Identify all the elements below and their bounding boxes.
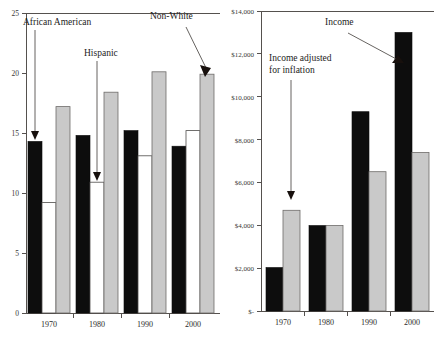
right-ytick-4000: $4,000 — [235, 222, 255, 230]
right-group-1980 — [309, 226, 343, 312]
left-chart-canvas: 25 20 15 10 5 0 — [0, 0, 220, 340]
annotation-income-adjusted-for-inflation: Income adjusted for inflation — [269, 53, 332, 200]
right-x-tick-marks — [304, 311, 390, 316]
left-x-tick-marks — [73, 313, 169, 318]
annotation-income-adjusted-label-line2: for inflation — [269, 65, 315, 75]
left-bar-non-white-1970 — [56, 107, 70, 313]
right-ytick-2000: $2,000 — [235, 265, 255, 273]
right-group-1990 — [352, 112, 386, 311]
left-bar-hispanic-1980 — [90, 182, 104, 313]
left-bar-african-american-1980 — [76, 135, 90, 313]
left-group-1990 — [124, 72, 166, 313]
right-ytick-8000: $8,000 — [235, 137, 255, 145]
annotation-income-leader — [348, 33, 400, 61]
right-ytick-6000: $6,000 — [235, 179, 255, 187]
left-bar-african-american-2000 — [172, 146, 186, 313]
right-group-2000 — [395, 32, 429, 311]
left-bar-chart: 25 20 15 10 5 0 — [0, 0, 220, 340]
right-xtick-1980: 1980 — [318, 318, 334, 327]
left-bar-non-white-2000 — [200, 74, 214, 313]
left-bar-hispanic-1970 — [42, 203, 56, 313]
figure-two-bar-charts: 25 20 15 10 5 0 — [0, 0, 434, 340]
left-bar-non-white-1990 — [152, 72, 166, 313]
annotation-african-american-label: African American — [23, 17, 92, 27]
right-bar-income-adjusted-2000 — [412, 152, 429, 311]
right-xtick-2000: 2000 — [404, 318, 420, 327]
right-bar-income-1980 — [309, 226, 326, 312]
left-xtick-2000: 2000 — [185, 320, 201, 329]
left-bar-hispanic-2000 — [186, 131, 200, 313]
annotation-income-label: Income — [325, 17, 354, 27]
right-ytick-12000: $12,000 — [231, 51, 254, 59]
left-group-2000 — [172, 74, 214, 313]
right-y-ticks: $14,000 $12,000 $10,000 $8,000 $6,000 $4… — [231, 8, 261, 316]
right-bar-income-1990 — [352, 112, 369, 311]
left-ytick-25: 25 — [12, 9, 20, 18]
right-bar-chart: $14,000 $12,000 $10,000 $8,000 $6,000 $4… — [220, 0, 434, 340]
right-ytick-14000: $14,000 — [231, 8, 254, 16]
annotation-non-white-leader — [186, 27, 208, 72]
left-bar-african-american-1990 — [124, 131, 138, 313]
right-ytick-0: $- — [248, 308, 255, 316]
annotation-non-white-label: Non-White — [150, 11, 193, 21]
annotation-income: Income — [325, 17, 404, 63]
annotation-non-white: Non-White — [150, 11, 211, 77]
left-bar-non-white-1980 — [104, 92, 118, 313]
right-bar-income-adjusted-1980 — [326, 226, 343, 312]
left-y-ticks: 25 20 15 10 5 0 — [12, 9, 27, 318]
annotation-african-american-arrowhead — [31, 131, 39, 140]
right-group-1970 — [266, 210, 300, 311]
left-ytick-20: 20 — [12, 69, 20, 78]
right-xtick-1970: 1970 — [275, 318, 291, 327]
left-bar-african-american-1970 — [28, 141, 42, 313]
right-xtick-1990: 1990 — [361, 318, 377, 327]
left-bar-hispanic-1990 — [138, 156, 152, 313]
left-ytick-10: 10 — [12, 189, 20, 198]
right-chart-canvas: $14,000 $12,000 $10,000 $8,000 $6,000 $4… — [220, 0, 434, 340]
right-ytick-10000: $10,000 — [231, 94, 254, 102]
annotation-hispanic-label: Hispanic — [84, 48, 118, 58]
left-xtick-1980: 1980 — [89, 320, 105, 329]
right-bar-income-adjusted-1970 — [283, 210, 300, 311]
left-ytick-15: 15 — [12, 129, 20, 138]
left-ytick-5: 5 — [15, 249, 19, 258]
right-bar-income-2000 — [395, 32, 412, 311]
right-bar-income-1970 — [266, 268, 283, 312]
annotation-income-adjusted-label-line1: Income adjusted — [269, 53, 332, 63]
left-ytick-0: 0 — [15, 309, 19, 318]
annotation-hispanic-arrowhead — [93, 172, 101, 181]
left-xtick-1970: 1970 — [41, 320, 57, 329]
annotation-income-adjusted-arrowhead — [287, 191, 295, 200]
left-xtick-1990: 1990 — [137, 320, 153, 329]
right-bar-income-adjusted-1990 — [369, 172, 386, 311]
